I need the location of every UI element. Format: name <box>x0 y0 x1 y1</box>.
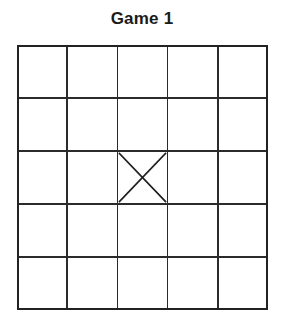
grid-canvas[interactable] <box>17 45 268 310</box>
game-grid[interactable] <box>17 45 268 310</box>
page-title: Game 1 <box>0 9 284 29</box>
